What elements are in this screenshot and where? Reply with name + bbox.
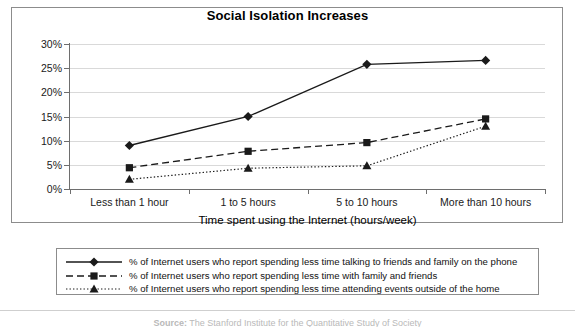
plot-area (70, 44, 545, 189)
x-axis-tick (545, 189, 546, 194)
y-axis-labels: 0%5%10%15%20%25%30% (0, 0, 62, 327)
x-axis-category-label: 5 to 10 hours (336, 196, 397, 208)
legend-label: % of Internet users who report spending … (129, 282, 500, 296)
gridline (70, 141, 545, 142)
gridline (70, 165, 545, 166)
y-axis-tick-label: 0% (2, 183, 62, 195)
x-axis-title: Time spent using the Internet (hours/wee… (70, 214, 545, 226)
source-label: Source: (154, 318, 188, 327)
y-axis-tick (64, 92, 70, 93)
y-axis-tick (64, 44, 70, 45)
x-axis-tick (426, 189, 427, 194)
x-axis-tick (308, 189, 309, 194)
y-axis-tick-label: 5% (2, 159, 62, 171)
y-axis-tick (64, 117, 70, 118)
diamond-marker (89, 257, 98, 266)
legend-item: % of Internet users who report spending … (57, 282, 538, 296)
source-note: Source: The Stanford Institute for the Q… (0, 318, 575, 327)
legend-marker-triangle (65, 282, 123, 296)
gridline (70, 44, 545, 45)
gridline (70, 92, 545, 93)
x-axis-category-label: More than 10 hours (440, 196, 531, 208)
gridline (70, 68, 545, 69)
y-axis-tick-label: 25% (2, 62, 62, 74)
y-axis-tick (64, 165, 70, 166)
y-axis-tick (64, 189, 70, 190)
footer-divider (0, 310, 575, 311)
gridline (70, 117, 545, 118)
chart-title: Social Isolation Increases (0, 8, 575, 23)
legend-label: % of Internet users who report spending … (129, 269, 437, 283)
x-axis-category-label: 1 to 5 hours (220, 196, 275, 208)
y-axis-tick (64, 68, 70, 69)
source-text: The Stanford Institute for the Quantitat… (189, 318, 421, 327)
legend-label: % of Internet users who report spending … (129, 255, 517, 269)
y-axis-tick-label: 10% (2, 135, 62, 147)
x-axis-tick (189, 189, 190, 194)
x-axis-tick (70, 189, 71, 194)
legend-item: % of Internet users who report spending … (57, 269, 538, 283)
legend-marker-diamond (65, 255, 123, 269)
square-marker (90, 272, 97, 279)
y-axis-tick-label: 15% (2, 111, 62, 123)
legend-marker-square (65, 269, 123, 283)
legend-item: % of Internet users who report spending … (57, 255, 538, 269)
x-axis-category-label: Less than 1 hour (90, 196, 168, 208)
y-axis-tick (64, 141, 70, 142)
y-axis-tick-label: 20% (2, 86, 62, 98)
legend: % of Internet users who report spending … (56, 248, 539, 295)
y-axis-tick-label: 30% (2, 38, 62, 50)
